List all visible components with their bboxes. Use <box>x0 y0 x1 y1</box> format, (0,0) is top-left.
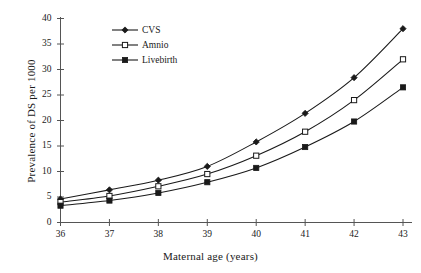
chart-legend: CVSAmnioLivebirth <box>110 22 177 67</box>
x-tick-label: 41 <box>293 229 317 239</box>
x-tick-label: 37 <box>97 229 121 239</box>
x-tick-label: 42 <box>342 229 366 239</box>
x-tick-label: 36 <box>49 229 73 239</box>
legend-marker-open-square-icon <box>110 38 140 52</box>
legend-item-livebirth[interactable]: Livebirth <box>110 52 177 67</box>
y-axis-title: Prevalence of DS per 1000 <box>25 36 37 206</box>
x-axis-title: Maternal age (years) <box>0 250 421 262</box>
x-tick-label: 38 <box>146 229 170 239</box>
y-tick-label: 0 <box>30 217 52 227</box>
legend-item-cvs[interactable]: CVS <box>110 22 177 37</box>
legend-label: CVS <box>142 25 160 35</box>
legend-label: Amnio <box>142 40 168 50</box>
legend-item-amnio[interactable]: Amnio <box>110 37 177 52</box>
legend-marker-filled-square-icon <box>110 53 140 67</box>
y-tick-label: 40 <box>30 13 52 23</box>
x-tick-label: 39 <box>195 229 219 239</box>
x-tick-label: 43 <box>391 229 415 239</box>
legend-marker-filled-diamond-icon <box>110 23 140 37</box>
chart-figure: 0510152025303540 3637383940414243 Preval… <box>0 0 421 273</box>
x-tick-label: 40 <box>244 229 268 239</box>
legend-label: Livebirth <box>142 55 177 65</box>
